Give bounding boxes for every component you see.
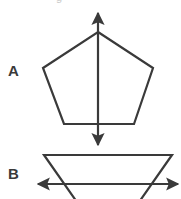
trapezoid-shape — [44, 155, 172, 199]
clipped-caption-text: g — [56, 0, 62, 3]
panel-label-b: B — [8, 166, 19, 181]
panel-label-a: A — [8, 63, 19, 78]
geometry-figure: g A B — [0, 0, 181, 199]
figure-canvas — [0, 0, 181, 199]
